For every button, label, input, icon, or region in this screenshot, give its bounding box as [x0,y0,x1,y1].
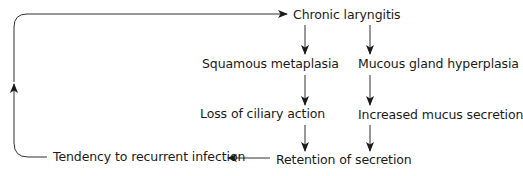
node-tendency-to-recurrent-infection: Tendency to recurrent infection [53,151,245,164]
node-chronic-laryngitis: Chronic laryngitis [293,9,401,22]
node-retention-of-secretion: Retention of secretion [276,154,412,167]
node-increased-mucus-secretion: Increased mucus secretion [358,109,523,122]
feedback-loop-line-bottom [14,84,47,157]
node-loss-of-ciliary-action: Loss of ciliary action [200,108,325,121]
feedback-loop-line-top [14,14,287,82]
node-mucous-gland-hyperplasia: Mucous gland hyperplasia [358,58,519,71]
node-squamous-metaplasia: Squamous metaplasia [202,58,339,71]
